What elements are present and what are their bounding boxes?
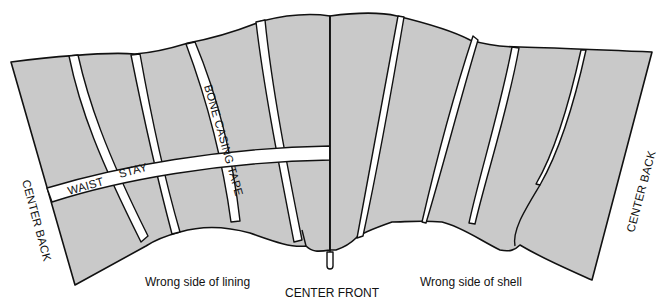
lining-caption: Wrong side of lining: [145, 275, 250, 289]
center-front-tab: [327, 252, 333, 269]
center-back-right-label: CENTER BACK: [624, 149, 657, 233]
shell-caption: Wrong side of shell: [420, 275, 522, 289]
bodice-diagram: CENTER BACK CENTER BACK WAIST STAY BONE …: [0, 0, 664, 303]
shell-panel: [330, 13, 652, 280]
lining-panel: [11, 14, 330, 285]
center-front-label: CENTER FRONT: [285, 286, 380, 300]
